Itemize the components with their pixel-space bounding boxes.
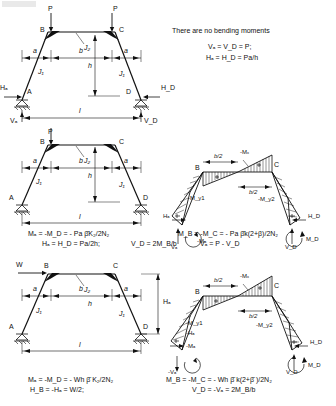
bmd-joint-c: C [274, 282, 279, 289]
bmd-dim-b-half-upper: b/2 [214, 153, 222, 159]
bmd-dim-b-half-lower: b/2 [249, 189, 257, 195]
reaction-label-ha: Hₐ [0, 84, 8, 91]
joint-label-d: D [143, 194, 148, 201]
joint-label-a: A [9, 323, 14, 330]
dim-label-a-right: a [124, 157, 128, 164]
case-middle-formula-left-2: Hₐ = H_D = Pa/2h; [42, 239, 100, 248]
dim-label-a-left: a [33, 157, 37, 164]
bmd-label-vd: V_D [285, 244, 297, 250]
joint-label-a: A [27, 88, 32, 95]
case-top-figure [0, 0, 336, 128]
bmd-label-my1: -M_y1 [186, 320, 203, 326]
bmd-label-hd: H_D [308, 213, 320, 219]
case-top-formula-1: Vₐ = V_D = P; [208, 42, 251, 51]
bmd-label-md: M_D [306, 236, 319, 242]
stiffness-label-j2: J₂ [84, 286, 90, 293]
bmd-label-ma: -Mₐ [186, 343, 195, 349]
bmd-label-my2: -M_y2 [256, 322, 273, 328]
bmd-joint-b: B [195, 164, 200, 171]
case-bottom: W B C A D J₂ J₁ J₁ a b a h l Hₐ B C b/2 … [0, 258, 336, 406]
joint-label-b: B [40, 138, 45, 145]
dim-label-h: h [88, 62, 92, 69]
load-label-p1: P [48, 5, 53, 12]
reference-sheet: P P B C A D J₂ J₁ J₁ a b a h l Hₐ H_D Vₐ… [0, 0, 336, 406]
side-label-ha: Hₐ [163, 298, 171, 305]
bmd-dim-b-half-upper: b/2 [214, 277, 222, 283]
dim-label-b: b [79, 285, 83, 292]
bmd-label-my1: -M_y1 [188, 195, 205, 201]
dim-label-a-right: a [124, 285, 128, 292]
load-label-p2: P [113, 5, 118, 12]
dim-label-b: b [79, 47, 83, 54]
load-label-w: W [16, 261, 23, 268]
reaction-label-vd: V_D [144, 117, 158, 124]
case-bottom-formula-left-1: Mₐ = -M_D = - Wh β̄ K₂/2N₂ [28, 375, 113, 384]
bmd-label-mx: -Mₓ [240, 149, 249, 155]
stiffness-label-j1-left: J₁ [38, 68, 44, 75]
case-middle-formula-right-1: M_B = -M_C = - Pa β̄k(2+β)/2N₂ [178, 229, 278, 238]
case-middle-formula-left-1: Mₐ = -M_D = - Pa β̄K₂/2N₂ [28, 229, 109, 238]
stiffness-label-j1-left: J₁ [36, 178, 42, 185]
case-middle: P B C A D J₂ J₁ J₁ a b a h l B C b/2 b/2… [0, 128, 336, 258]
joint-label-b: B [44, 262, 49, 269]
case-middle-formula-right-2: V_D = 2M_B/b [131, 239, 177, 248]
case-bottom-formula-right-2: V_D = -Vₐ = 2M_B/b [192, 385, 255, 394]
case-bottom-formula-left-2: H_B = -Hₐ = W/2; [30, 385, 84, 394]
load-label-p: P [48, 128, 53, 135]
case-middle-formula-right-3: Vₐ = P - V_D [200, 239, 240, 248]
bmd-label-ha-neg: -Hₐ [186, 330, 195, 336]
joint-label-c: C [119, 138, 124, 145]
bmd-label-mx: -Mₓ [240, 273, 249, 279]
bmd-label-ha: Hₐ [163, 213, 170, 219]
stiffness-label-j1-left: J₁ [36, 307, 42, 314]
stiffness-label-j1-right: J₁ [119, 181, 125, 188]
dim-label-h: h [88, 172, 92, 179]
dim-label-l: l [79, 213, 81, 220]
no-moments-note: There are no bending moments [172, 27, 270, 34]
dim-label-a-left: a [33, 47, 37, 54]
case-top-formula-2: Hₐ = H_D = Pa/h [206, 53, 258, 62]
dim-label-a-left: a [33, 285, 37, 292]
joint-label-c: C [119, 26, 124, 33]
stiffness-label-j1-right: J₁ [119, 70, 125, 77]
dim-label-b: b [79, 157, 83, 164]
stiffness-label-j2: J₂ [84, 44, 90, 51]
joint-label-c: C [113, 262, 118, 269]
dim-label-l: l [79, 107, 81, 114]
bmd-label-vd: V_D [286, 369, 298, 375]
joint-label-d: D [126, 88, 131, 95]
case-top: P P B C A D J₂ J₁ J₁ a b a h l Hₐ H_D Vₐ… [0, 0, 336, 128]
dim-label-h: h [88, 300, 92, 307]
bmd-dim-b-half-lower: b/2 [249, 313, 257, 319]
bmd-joint-c: C [274, 161, 279, 168]
dim-label-l: l [79, 341, 81, 348]
stiffness-label-j2: J₂ [84, 157, 90, 164]
joint-label-a: A [9, 194, 14, 201]
stiffness-label-j1-right: J₁ [119, 310, 125, 317]
reaction-label-hd: H_D [161, 84, 175, 91]
bmd-joint-b: B [195, 288, 200, 295]
bmd-label-hd: H_D [310, 339, 322, 345]
bmd-label-md: M_D [308, 362, 321, 368]
dim-label-a-right: a [124, 47, 128, 54]
case-bottom-formula-right-1: M_B = -M_C = - Wh β̄ k(2+β̄ )/2N₂ [166, 375, 272, 384]
bmd-label-my2: -M_y2 [258, 196, 275, 202]
joint-label-d: D [143, 323, 148, 330]
reaction-label-va: Vₐ [10, 117, 17, 124]
joint-label-b: B [40, 26, 45, 33]
